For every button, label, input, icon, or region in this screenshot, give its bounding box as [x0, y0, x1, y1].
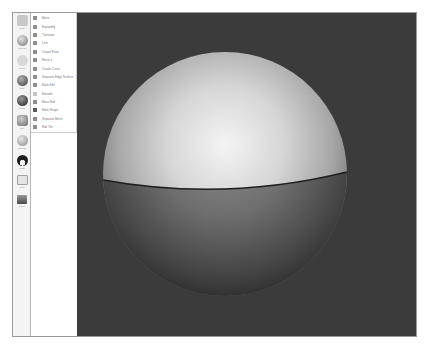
tool-label: Materials	[18, 147, 26, 150]
menu-item-label: Line	[42, 41, 48, 45]
globe-icon	[17, 95, 28, 106]
menu-item-create-point[interactable]: Create Point	[31, 48, 76, 56]
mass-edit-icon	[33, 100, 37, 104]
tool-curves[interactable]: Curves	[14, 55, 30, 73]
equator-seam	[103, 52, 347, 296]
light-icon	[17, 155, 28, 166]
menu-item-label: Create Curve	[42, 67, 60, 71]
menu-item-separate-mesh[interactable]: Separate Mesh	[31, 115, 76, 123]
menu-item-label: Mass Edit	[42, 100, 55, 104]
menu-item-label: Translate	[42, 33, 54, 37]
menu-item-label: Move	[42, 16, 49, 20]
menu-item-label: Separate Edge Surface	[42, 75, 73, 79]
material-ball-icon	[17, 135, 28, 146]
curve-icon	[33, 67, 37, 71]
menu-item-translate[interactable]: Translate	[31, 31, 76, 39]
tool-deform[interactable]: Deform	[14, 95, 30, 113]
menu-item-mark-shape[interactable]: Mark Shape	[31, 106, 76, 114]
sphere-object[interactable]	[103, 52, 347, 296]
tool-label: Lights	[19, 167, 24, 170]
tool-mask[interactable]: Mask	[14, 175, 30, 193]
cup-icon	[17, 115, 28, 126]
tool-label: Paint	[20, 87, 25, 90]
point-icon	[33, 50, 37, 54]
sphere-tool-icon	[17, 35, 28, 46]
plus-icon	[17, 15, 28, 26]
tool-materials[interactable]: Materials	[14, 135, 30, 153]
mirror-icon	[33, 58, 37, 62]
3d-viewport[interactable]	[77, 13, 416, 336]
tool-label: Modeling	[18, 47, 26, 50]
extrude-icon	[33, 92, 37, 96]
menu-item-label: Separate Mesh	[42, 117, 62, 121]
tool-edit[interactable]: Edit	[14, 115, 30, 133]
menu-item-move[interactable]: Move	[31, 14, 76, 22]
menu-item-label: Mark Edit	[42, 83, 55, 87]
tool-create[interactable]: Create	[14, 15, 30, 33]
tool-palette: Create Modeling Curves Paint Deform Edit…	[13, 13, 31, 336]
menu-item-expandify[interactable]: Expandify	[31, 22, 76, 30]
shape-icon	[33, 108, 37, 112]
move-icon	[33, 16, 37, 20]
tool-label: Render	[19, 205, 26, 208]
tool-menu: Move Expandify Translate Line Create Poi…	[31, 13, 77, 133]
mesh-icon	[33, 117, 37, 121]
tool-label: Curves	[19, 67, 25, 70]
tile-icon	[33, 125, 37, 129]
brush-icon	[17, 75, 28, 86]
tool-modeling[interactable]: Modeling	[14, 35, 30, 53]
mark-icon	[33, 83, 37, 87]
menu-item-mass-edit[interactable]: Mass Edit	[31, 98, 76, 106]
menu-item-label: Edit Tile	[42, 125, 53, 129]
menu-item-label: Mark Shape	[42, 108, 58, 112]
curve-icon	[17, 55, 28, 66]
tool-label: Create	[19, 27, 25, 30]
expand-icon	[33, 25, 37, 29]
tool-label: Edit	[20, 127, 23, 130]
menu-item-label: Expandify	[42, 25, 55, 29]
tool-render[interactable]: Render	[14, 195, 30, 213]
menu-item-mark-edit[interactable]: Mark Edit	[31, 81, 76, 89]
tool-label: Mask	[20, 186, 25, 189]
menu-item-label: Extrude	[42, 92, 52, 96]
surface-icon	[33, 75, 37, 79]
box-icon	[17, 175, 28, 185]
menu-item-line[interactable]: Line	[31, 39, 76, 47]
line-icon	[33, 41, 37, 45]
menu-item-edit-tile[interactable]: Edit Tile	[31, 123, 76, 131]
menu-item-create-curve[interactable]: Create Curve	[31, 64, 76, 72]
translate-icon	[33, 33, 37, 37]
render-icon	[17, 195, 27, 204]
menu-item-mirror[interactable]: Mirror it	[31, 56, 76, 64]
menu-item-label: Create Point	[42, 50, 59, 54]
menu-item-extrude[interactable]: Extrude	[31, 90, 76, 98]
tool-label: Deform	[19, 107, 26, 110]
menu-item-separate-edge-surface[interactable]: Separate Edge Surface	[31, 73, 76, 81]
tool-lights[interactable]: Lights	[14, 155, 30, 173]
tool-paint[interactable]: Paint	[14, 75, 30, 93]
menu-item-label: Mirror it	[42, 58, 52, 62]
